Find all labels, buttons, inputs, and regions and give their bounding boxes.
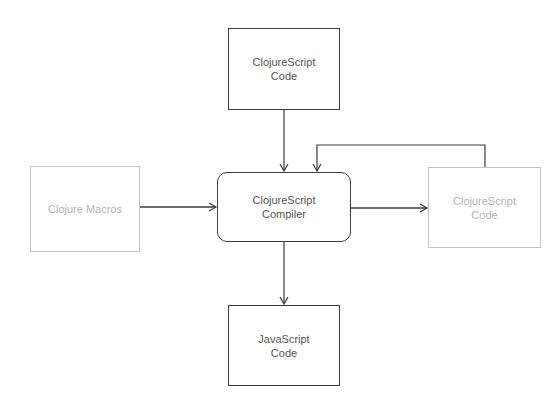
node-clojurescript-source-label: ClojureScript Code bbox=[253, 55, 316, 83]
diagram-canvas: ClojureScript Code Clojure Macros Clojur… bbox=[0, 0, 558, 394]
node-javascript-output-label: JavaScript Code bbox=[258, 332, 309, 360]
node-clojurescript-compiler: ClojureScript Compiler bbox=[217, 172, 351, 242]
node-clojure-macros: Clojure Macros bbox=[30, 166, 140, 252]
node-clojure-macros-label: Clojure Macros bbox=[48, 202, 122, 216]
node-clojurescript-source: ClojureScript Code bbox=[228, 28, 340, 110]
node-clojurescript-compiler-label: ClojureScript Compiler bbox=[253, 193, 316, 221]
node-javascript-output: JavaScript Code bbox=[228, 305, 340, 386]
node-clojurescript-output: ClojureScript Code bbox=[428, 167, 541, 248]
node-clojurescript-output-label: ClojureScript Code bbox=[453, 194, 516, 222]
